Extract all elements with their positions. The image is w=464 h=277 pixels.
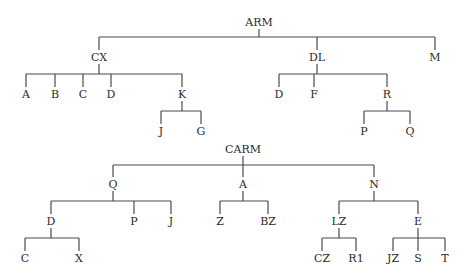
node-cx: CX xyxy=(91,51,107,64)
node-d-x: X xyxy=(75,252,83,265)
node-carm: CARM xyxy=(225,143,261,156)
node-arm: ARM xyxy=(244,16,273,29)
tree-diagram: ARM CX DL M A B C D K J G D xyxy=(0,0,464,277)
node-k-g: G xyxy=(197,125,206,138)
node-e-jz: JZ xyxy=(386,252,399,265)
node-k-j: J xyxy=(158,125,163,138)
node-q-j: J xyxy=(168,215,173,228)
node-cx-a: A xyxy=(21,88,31,101)
node-e-t: T xyxy=(441,252,449,265)
node-cx-k: K xyxy=(178,88,187,101)
node-q-d: D xyxy=(47,215,56,228)
node-q-p: P xyxy=(130,215,138,228)
node-a-z: Z xyxy=(216,215,224,228)
node-a: A xyxy=(238,178,248,191)
node-dl-f: F xyxy=(310,88,318,101)
node-lz-r1: R1 xyxy=(348,252,363,265)
node-a-bz: BZ xyxy=(260,215,276,228)
node-cx-b: B xyxy=(51,88,59,101)
node-lz-cz: CZ xyxy=(314,252,330,265)
node-cx-c: C xyxy=(79,88,87,101)
node-q: Q xyxy=(108,178,117,191)
tree-carm: CARM Q A N D P J C X Z BZ xyxy=(21,143,450,265)
node-e-s: S xyxy=(414,252,422,265)
node-n-lz: LZ xyxy=(332,215,347,228)
tree-arm: ARM CX DL M A B C D K J G D xyxy=(21,16,441,138)
node-m: M xyxy=(429,51,440,64)
node-r-q: Q xyxy=(405,125,414,138)
node-dl: DL xyxy=(309,51,326,64)
node-dl-d: D xyxy=(275,88,284,101)
node-cx-d: D xyxy=(107,88,116,101)
node-dl-r: R xyxy=(383,88,392,101)
node-n-e: E xyxy=(414,215,422,228)
node-r-p: P xyxy=(360,125,368,138)
node-d-c: C xyxy=(21,252,29,265)
node-n: N xyxy=(369,178,379,191)
